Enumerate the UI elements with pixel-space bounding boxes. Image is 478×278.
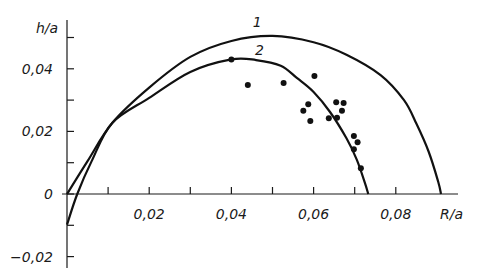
- data-point: [334, 115, 340, 121]
- data-point: [311, 73, 317, 79]
- data-point: [339, 108, 345, 114]
- chart: 0,020,040,060,08 0,040,020−0,02 h/a R/a …: [0, 0, 478, 278]
- y-ticks: 0,040,020−0,02: [10, 38, 74, 265]
- y-tick-label: 0: [44, 186, 53, 202]
- data-point: [245, 82, 251, 88]
- y-tick-label: −0,02: [10, 249, 53, 265]
- curve-2: [67, 58, 368, 224]
- data-point: [305, 101, 311, 107]
- data-point: [351, 133, 357, 139]
- data-point: [300, 108, 306, 114]
- y-axis-label: h/a: [36, 20, 58, 36]
- curve-label-2: 2: [255, 42, 264, 58]
- x-tick-label: 0,02: [134, 206, 165, 222]
- axes: 0,020,040,060,08 0,040,020−0,02: [10, 20, 458, 268]
- x-tick-label: 0,06: [298, 206, 329, 222]
- series-layer: 12: [67, 14, 441, 225]
- data-point: [228, 56, 234, 62]
- y-tick-label: 0,04: [22, 61, 53, 77]
- x-axis-label: R/a: [440, 206, 463, 222]
- data-point: [307, 118, 313, 124]
- data-point: [326, 115, 332, 121]
- x-ticks: 0,020,040,060,08: [108, 187, 411, 222]
- data-point: [358, 165, 364, 171]
- data-point: [281, 80, 287, 86]
- x-tick-label: 0,08: [380, 206, 411, 222]
- y-tick-label: 0,02: [22, 123, 53, 139]
- x-tick-label: 0,04: [216, 206, 247, 222]
- data-point: [333, 99, 339, 105]
- data-point: [341, 100, 347, 106]
- data-point: [351, 146, 357, 152]
- curve-label-1: 1: [253, 14, 262, 30]
- data-point: [355, 139, 361, 145]
